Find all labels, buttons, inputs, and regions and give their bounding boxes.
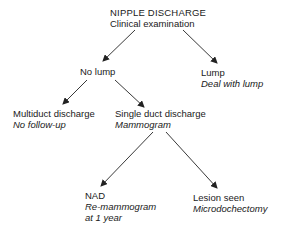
lesion-action: Microdochectomy bbox=[193, 203, 267, 214]
nad-action-line1: Re-mammogram bbox=[85, 201, 156, 212]
no-lump-title: No lump bbox=[80, 66, 115, 77]
multiduct-title: Multiduct discharge bbox=[13, 108, 95, 119]
multiduct-action: No follow-up bbox=[13, 119, 95, 130]
lump-title: Lump bbox=[201, 67, 263, 78]
node-multiduct: Multiduct discharge No follow-up bbox=[13, 108, 95, 130]
node-single-duct: Single duct discharge Mammogram bbox=[115, 108, 206, 130]
nad-action-line2: at 1 year bbox=[85, 212, 156, 223]
node-root: NIPPLE DISCHARGE Clinical examination bbox=[110, 7, 206, 29]
lesion-title: Lesion seen bbox=[193, 192, 267, 203]
lump-action: Deal with lump bbox=[201, 78, 263, 89]
arrow-root-to-no-lump bbox=[103, 30, 135, 61]
arrow-single-duct-to-nad bbox=[101, 132, 153, 186]
arrow-no-lump-to-single-duct bbox=[115, 80, 144, 107]
node-lump: Lump Deal with lump bbox=[201, 67, 263, 89]
single-duct-action: Mammogram bbox=[115, 119, 206, 130]
node-no-lump: No lump bbox=[80, 66, 115, 77]
node-lesion: Lesion seen Microdochectomy bbox=[193, 192, 267, 214]
root-action: Clinical examination bbox=[110, 18, 206, 29]
arrow-single-duct-to-lesion bbox=[166, 132, 217, 188]
node-nad: NAD Re-mammogram at 1 year bbox=[85, 190, 156, 223]
arrow-root-to-lump bbox=[183, 30, 217, 63]
single-duct-title: Single duct discharge bbox=[115, 108, 206, 119]
root-title: NIPPLE DISCHARGE bbox=[110, 7, 206, 18]
arrow-no-lump-to-multiduct bbox=[63, 80, 87, 104]
nad-title: NAD bbox=[85, 190, 156, 201]
